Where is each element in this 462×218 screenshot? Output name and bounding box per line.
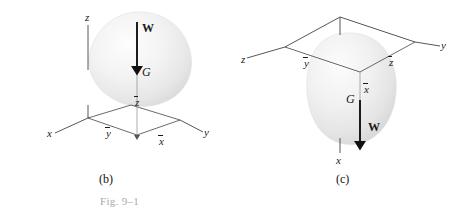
plane-edge-front-left-b: [88, 118, 137, 135]
panel-b-zbar-dimension-label: z: [135, 93, 139, 109]
panel-b-ybar-dimension-label: y: [106, 124, 111, 140]
panel-c-caption: (c): [336, 173, 349, 185]
panel-c-weight-vector-label: W: [368, 121, 380, 133]
panel-b-caption: (b): [99, 173, 113, 185]
panel-c-z-axis-label: z: [241, 54, 245, 65]
rigid-body-blob-b: [89, 12, 192, 107]
y-axis-line-b: [180, 120, 203, 132]
panel-c-ybar-dimension-label: y: [304, 54, 309, 70]
panel-c-x-axis-label: x: [336, 155, 341, 166]
panel-c-y-axis-label: y: [441, 40, 446, 51]
z-axis-line-c: [247, 47, 285, 58]
x-axis-line-b: [55, 118, 88, 133]
figure-caption: Fig. 9–1: [100, 196, 139, 207]
rigid-body-blob-c: [307, 33, 397, 145]
figure-vector-canvas: [0, 0, 462, 218]
panel-b-xbar-dimension-label: x: [159, 132, 164, 148]
panel-b-graphic: [55, 12, 203, 140]
panel-b-centroid-label: G: [142, 66, 151, 78]
panel-b-weight-vector-label: W: [142, 22, 154, 34]
plane-edge-back-left-b: [88, 105, 131, 118]
y-axis-line-c: [415, 42, 440, 46]
origin-marker-b: [134, 135, 140, 140]
panel-c-graphic: [247, 17, 440, 153]
figure-9-1: z x y y x z G W (b) z y x y z x G W (c) …: [0, 0, 462, 218]
panel-c-xbar-dimension-label: x: [364, 80, 369, 96]
panel-b-z-axis-label: z: [85, 12, 89, 23]
panel-c-zbar-dimension-label: z: [389, 53, 393, 69]
panel-b-y-axis-label: y: [204, 127, 209, 138]
panel-c-centroid-label: G: [346, 93, 355, 105]
panel-b-x-axis-label: x: [47, 128, 52, 139]
